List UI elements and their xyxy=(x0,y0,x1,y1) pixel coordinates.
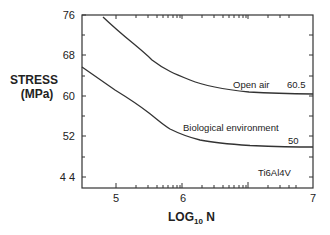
y-axis-ticks xyxy=(82,15,313,177)
y-tick-label-76: 76 xyxy=(63,9,75,21)
x-tick-label-5: 5 xyxy=(113,192,119,204)
material-label: Ti6Al4V xyxy=(258,167,292,178)
y-tick-label-68: 68 xyxy=(63,49,75,61)
biological-environment-curve xyxy=(82,67,313,147)
fatigue-chart: 76 68 60 52 4 4 5 6 7 STRESS (MPa) LOG10… xyxy=(0,0,330,235)
x-tick-label-7: 7 xyxy=(310,192,316,204)
y-axis-title-line1: STRESS xyxy=(10,73,58,87)
x-tick-label-6: 6 xyxy=(180,192,186,204)
y-tick-label-52: 52 xyxy=(63,130,75,142)
biological-environment-label: Biological environment xyxy=(183,122,279,133)
x-axis-title-main: LOG xyxy=(168,210,194,224)
x-axis-ticks xyxy=(116,15,296,188)
y-axis-title-line2: (MPa) xyxy=(21,87,54,101)
plot-frame xyxy=(82,15,313,188)
x-axis-title: LOG10 N xyxy=(168,210,215,226)
x-axis-title-tail: N xyxy=(203,210,215,224)
open-air-curve xyxy=(103,17,313,94)
open-air-value-label: 60.5 xyxy=(287,79,306,90)
open-air-label: Open air xyxy=(233,79,269,90)
y-tick-label-44: 4 4 xyxy=(60,171,75,183)
y-tick-label-60: 60 xyxy=(63,90,75,102)
biological-value-label: 50 xyxy=(288,135,299,146)
